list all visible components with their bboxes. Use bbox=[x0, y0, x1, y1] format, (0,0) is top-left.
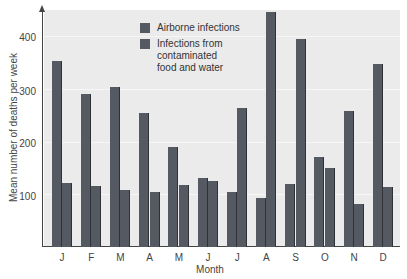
bar-airborne bbox=[52, 61, 62, 247]
y-axis-label: Mean number of deaths per week bbox=[8, 53, 19, 203]
bar-food-water bbox=[91, 186, 101, 247]
bar-airborne bbox=[344, 111, 354, 247]
x-tick-label: S bbox=[286, 252, 306, 263]
bar-airborne bbox=[373, 64, 383, 247]
x-axis-label: Month bbox=[190, 264, 230, 275]
legend-item-airborne: Airborne infections bbox=[140, 22, 247, 34]
bar-food-water bbox=[383, 187, 393, 247]
bar-airborne bbox=[227, 192, 237, 247]
bar-airborne bbox=[81, 94, 91, 247]
legend-swatch-airborne bbox=[140, 23, 150, 33]
bar-food-water bbox=[120, 190, 130, 247]
bar-airborne bbox=[198, 178, 208, 247]
x-tick-label: F bbox=[81, 252, 101, 263]
x-tick-label: O bbox=[315, 252, 335, 263]
bar-food-water bbox=[296, 39, 306, 247]
legend-label-airborne: Airborne infections bbox=[157, 22, 247, 34]
bar-airborne bbox=[139, 113, 149, 247]
x-tick-label: J bbox=[198, 252, 218, 263]
x-tick-label: M bbox=[110, 252, 130, 263]
x-tick-label: J bbox=[52, 252, 72, 263]
bar-airborne bbox=[314, 157, 324, 247]
x-tick-label: N bbox=[344, 252, 364, 263]
x-tick-label: D bbox=[373, 252, 393, 263]
gridline bbox=[44, 89, 400, 90]
bar-food-water bbox=[354, 204, 364, 247]
bar-food-water bbox=[208, 181, 218, 247]
bar-airborne bbox=[110, 87, 120, 247]
bar-food-water bbox=[150, 192, 160, 247]
bar-food-water bbox=[266, 12, 276, 247]
bar-airborne bbox=[256, 198, 266, 247]
legend: Airborne infections Infections from cont… bbox=[140, 22, 247, 78]
legend-label-food-water: Infections from contaminated food and wa… bbox=[157, 38, 247, 74]
bar-food-water bbox=[325, 168, 335, 247]
bar-food-water bbox=[237, 108, 247, 247]
y-axis bbox=[42, 10, 43, 247]
legend-item-food-water: Infections from contaminated food and wa… bbox=[140, 38, 247, 74]
bar-airborne bbox=[285, 184, 295, 247]
x-tick-label: M bbox=[169, 252, 189, 263]
bar-food-water bbox=[62, 183, 72, 247]
x-tick-label: A bbox=[140, 252, 160, 263]
legend-swatch-food-water bbox=[140, 39, 150, 49]
x-tick-label: J bbox=[227, 252, 247, 263]
x-tick-label: A bbox=[256, 252, 276, 263]
bar-airborne bbox=[168, 147, 178, 247]
y-tick-400: 400 bbox=[0, 32, 36, 44]
bar-food-water bbox=[179, 185, 189, 247]
